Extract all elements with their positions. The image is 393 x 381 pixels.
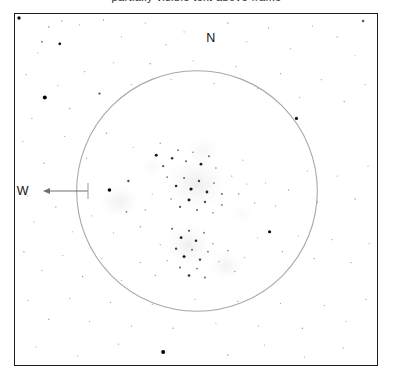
star-point [131,326,132,327]
west-direction-arrow [43,183,89,199]
star-point [299,97,300,98]
star-point [204,201,206,203]
star-point [324,305,325,306]
star-point [183,255,186,258]
star-point [17,16,20,19]
star-point [298,235,299,236]
star-point [264,345,265,346]
star-point [258,326,259,327]
star-point [155,275,156,276]
star-point [368,243,369,244]
star-point [170,198,172,200]
star-point [145,209,146,210]
star-point [254,202,255,203]
star-point [227,354,228,355]
star-point [106,133,107,134]
star-point [221,193,223,195]
star-point [362,20,365,23]
star-point [355,55,356,56]
star-point [23,251,24,252]
star-point [183,177,185,179]
star-point [57,85,58,86]
star-point [89,321,90,322]
star-point [188,198,191,201]
star-point [195,239,198,242]
star-point [125,211,127,213]
star-point [244,257,245,258]
southeast-glow [207,249,245,283]
star-point [312,25,313,26]
star-point [213,182,215,184]
star-point [337,175,338,176]
star-point [332,239,333,240]
star-point [246,183,247,184]
star-point [155,154,158,157]
star-point [160,143,161,144]
star-point [103,19,104,20]
star-point [37,52,38,53]
star-point [242,160,243,161]
star-point [317,201,318,202]
star-point [64,136,65,137]
star-point [237,301,238,302]
star-point [302,328,303,329]
star-point [265,182,266,183]
compass-label-west: W [17,185,29,198]
star-point [275,205,276,206]
star-point [288,189,289,190]
star-point [350,262,351,263]
star-point [218,261,219,262]
star-point [131,84,132,85]
star-point [194,299,195,300]
star-point [48,26,50,28]
star-point [342,347,343,348]
star-point [321,79,322,80]
star-point [268,230,271,233]
star-point [41,270,42,271]
star-point [337,36,338,37]
star-point [31,118,32,119]
star-point [212,243,214,245]
star-point [145,22,146,23]
star-point [41,41,43,43]
star-point [27,300,28,301]
star-point [48,319,49,320]
star-point [127,180,129,182]
star-point [189,187,192,190]
star-point [133,147,134,148]
star-point [172,328,173,329]
star-point [43,96,47,100]
star-point [180,236,183,239]
star-point [177,149,179,151]
star-point [198,180,200,182]
star-point [200,163,203,166]
star-point [175,185,178,188]
star-point [314,258,315,259]
star-point [118,343,119,344]
star-point [84,71,85,72]
star-point [150,63,151,64]
star-point [171,228,173,230]
star-point [77,355,78,356]
star-point [22,141,23,142]
star-point [196,209,198,211]
star-point [280,303,281,304]
star-point [72,231,73,232]
star-point [367,166,368,167]
star-point [160,244,161,245]
star-point [188,274,191,277]
star-point [235,66,236,67]
clipped-caption-text: partially visible text above frame [0,0,393,3]
star-point [227,22,228,23]
star-point [165,44,166,45]
star-point [246,41,247,42]
star-point [295,117,298,120]
star-point [33,221,34,222]
star-point [183,31,184,32]
star-point [215,323,216,324]
star-point [212,212,214,214]
star-point [290,48,291,49]
north-halo [181,134,225,166]
star-point [98,92,100,94]
star-point [175,247,177,249]
